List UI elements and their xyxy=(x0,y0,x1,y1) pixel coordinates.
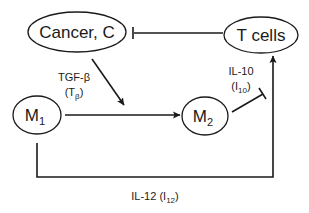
inhibition-bar-icon xyxy=(259,88,266,99)
edge-label-tgf-beta: TGF-β xyxy=(58,71,90,83)
edge-label-il12: IL-12 (I12) xyxy=(131,190,178,205)
node-m1: M1 xyxy=(13,96,61,134)
edge-tcells-inhibits-cancer xyxy=(133,27,223,39)
edge-sublabel-tgf-beta: (Tβ) xyxy=(65,86,84,101)
edge-label-il10: IL-10 xyxy=(228,65,253,77)
edge-m1-to-m2: TGF-β (Tβ) xyxy=(58,71,180,115)
node-label-tcells: T cells xyxy=(237,26,286,45)
edge-m2-inhibits-il12: IL-10 (I10) xyxy=(228,65,266,112)
node-label-cancer: Cancer, C xyxy=(39,23,115,42)
edge-cancer-promotes-polarization xyxy=(92,59,124,105)
regulatory-network-diagram: TGF-β (Tβ) IL-10 (I10) IL-12 (I12) Cance… xyxy=(0,0,309,213)
node-tcells: T cells xyxy=(224,17,298,53)
edge-sublabel-il10: (I10) xyxy=(231,80,250,95)
node-m2: M2 xyxy=(182,97,228,135)
node-cancer: Cancer, C xyxy=(28,12,126,52)
